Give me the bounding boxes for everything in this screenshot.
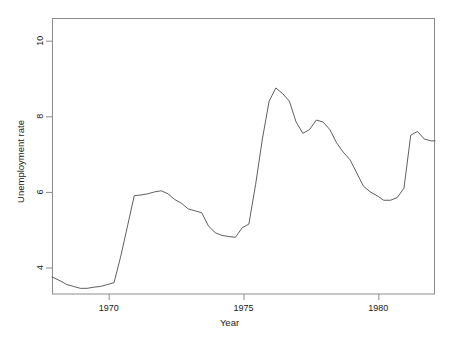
- x-tick-label: 1970: [99, 303, 119, 313]
- y-tick-label: 10: [35, 36, 45, 46]
- chart-canvas: 46810 197019751980: [0, 0, 459, 338]
- y-axis-title: Unemployment rate: [15, 102, 26, 222]
- x-tick-label: 1975: [233, 303, 253, 313]
- x-axis-title: Year: [0, 317, 459, 328]
- y-tick-label: 8: [35, 114, 45, 119]
- data-series-group: [52, 88, 435, 288]
- y-axis-ticks: 46810: [35, 36, 52, 270]
- series-line: [52, 88, 435, 288]
- unemployment-rate-chart: 46810 197019751980 Unemployment rate Yea…: [0, 0, 459, 338]
- plot-frame: [53, 19, 435, 295]
- y-tick-label: 6: [35, 189, 45, 194]
- x-tick-label: 1980: [368, 303, 388, 313]
- y-tick-label: 4: [35, 265, 45, 270]
- x-axis-ticks: 197019751980: [99, 294, 389, 313]
